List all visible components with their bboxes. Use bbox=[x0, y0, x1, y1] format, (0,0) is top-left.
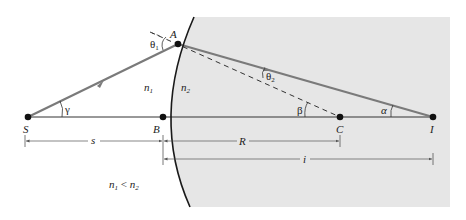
label-C: C bbox=[336, 123, 344, 135]
dim-R-label: R bbox=[238, 135, 246, 147]
point-S bbox=[25, 114, 32, 121]
medium-2-region bbox=[171, 17, 450, 207]
condition-label: n1 < n2 bbox=[109, 178, 139, 192]
label-alpha: α bbox=[381, 104, 387, 116]
point-I bbox=[430, 114, 437, 121]
point-C bbox=[337, 114, 344, 121]
label-A: A bbox=[169, 28, 177, 40]
label-S: S bbox=[23, 123, 29, 135]
label-theta1: θ1 bbox=[150, 38, 159, 52]
dim-i-label: i bbox=[303, 153, 306, 165]
gamma-arc bbox=[60, 101, 63, 117]
refraction-diagram: S A B C I γ θ1 θ2 β α n1 n2 s R i n1 < n… bbox=[0, 0, 466, 220]
label-n1: n1 bbox=[144, 81, 153, 95]
label-beta: β bbox=[297, 104, 303, 116]
dim-s-label: s bbox=[91, 134, 95, 146]
point-B bbox=[160, 114, 167, 121]
theta1-extension bbox=[152, 33, 160, 36]
label-B: B bbox=[153, 123, 160, 135]
theta1-arc bbox=[162, 37, 166, 50]
point-A bbox=[175, 41, 182, 48]
label-gamma: γ bbox=[64, 103, 70, 115]
incident-ray bbox=[28, 44, 178, 117]
